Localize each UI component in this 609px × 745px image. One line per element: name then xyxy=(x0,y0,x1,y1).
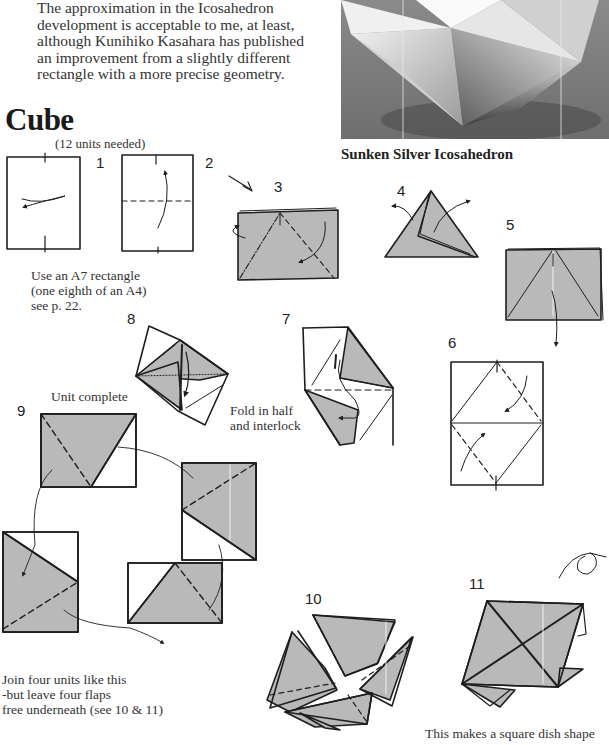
step-4-diagram xyxy=(385,191,478,257)
step-8-diagram xyxy=(136,326,228,425)
step-3-diagram xyxy=(233,208,338,280)
step-9-unit-bottom xyxy=(128,563,222,623)
step-5-diagram xyxy=(506,248,603,345)
step-9-unit-top xyxy=(41,414,136,487)
step-9-unit-left xyxy=(3,532,78,632)
step-1-diagram xyxy=(7,153,80,252)
step-6-diagram xyxy=(451,360,543,490)
step-10-diagram xyxy=(267,615,413,730)
folding-diagrams xyxy=(0,0,609,745)
step-2-diagram xyxy=(122,155,193,253)
rotate-arrow-icon xyxy=(559,553,606,578)
step-11-diagram xyxy=(462,601,586,707)
step-7-diagram xyxy=(303,327,393,445)
